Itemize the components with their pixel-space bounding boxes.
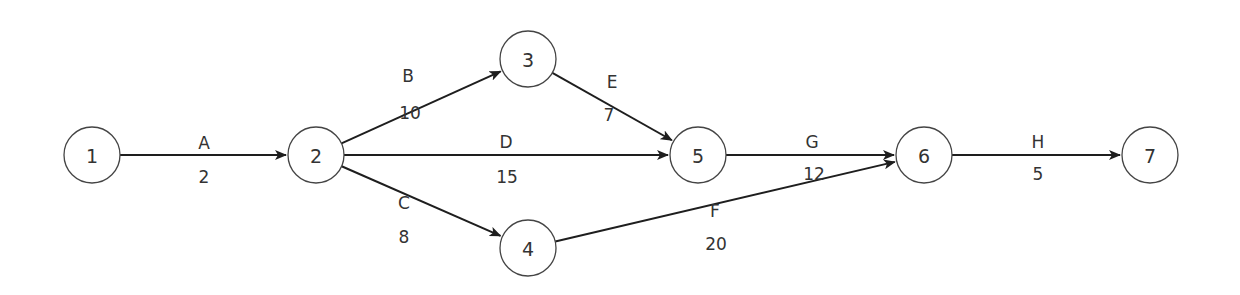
node-label: 5 [692,145,704,167]
activity-duration: 7 [604,105,615,125]
event-node-6: 6 [896,127,952,183]
event-node-5: 5 [670,127,726,183]
edge-activity-c [342,166,501,236]
edge-activity-f [555,162,895,242]
activity-label: A [198,133,210,153]
activity-duration: 15 [496,167,518,187]
network-diagram: 1234567 A2B10D15C8E7G12F20H5 [0,0,1240,295]
nodes-layer: 1234567 [64,31,1178,276]
event-node-4: 4 [500,220,556,276]
edges-layer [120,71,1120,241]
arrow-4-to-6 [555,162,895,242]
event-node-1: 1 [64,127,120,183]
activity-duration: 2 [199,167,210,187]
arrow-2-to-4 [342,166,501,236]
activity-label: G [805,132,818,152]
activity-label: E [607,72,618,92]
activity-label: H [1032,132,1045,152]
node-label: 7 [1144,145,1156,167]
event-node-7: 7 [1122,127,1178,183]
node-label: 3 [522,49,534,71]
activity-duration: 10 [399,103,421,123]
node-label: 4 [522,238,534,260]
activity-label: C [398,193,410,213]
event-node-3: 3 [500,31,556,87]
activity-label: B [402,66,414,86]
event-node-2: 2 [288,127,344,183]
activity-duration: 12 [803,164,825,184]
activity-label: D [499,132,512,152]
activity-duration: 8 [399,227,410,247]
node-label: 6 [918,145,930,167]
arrow-2-to-3 [342,71,501,143]
activity-duration: 5 [1033,164,1044,184]
node-label: 1 [86,145,98,167]
node-label: 2 [310,145,322,167]
edge-activity-b [342,71,501,143]
activity-duration: 20 [705,234,727,254]
activity-label: F [710,201,720,221]
